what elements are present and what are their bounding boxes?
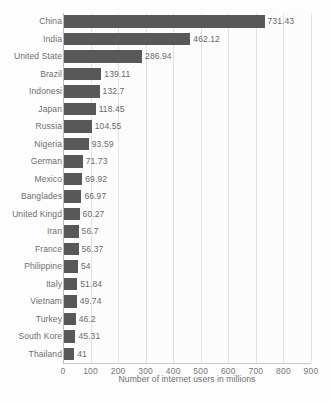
bar[interactable] [63, 208, 80, 220]
category-label-cell: Turkey [0, 311, 63, 329]
bar-value-label: 60.27 [83, 208, 105, 220]
category-label-cell: Indonesi [0, 83, 63, 101]
bar-value-label: 139.11 [104, 68, 130, 80]
bar-row: 41 [63, 346, 311, 364]
category-label-cell: India [0, 31, 63, 49]
bar-row: 66.97 [63, 188, 311, 206]
bar[interactable] [63, 120, 92, 132]
bar-row: 56.7 [63, 223, 311, 241]
category-label-cell: United State [0, 48, 63, 66]
bar-row: 51.84 [63, 276, 311, 294]
category-label: Italy [46, 278, 62, 290]
category-label: United State [14, 50, 62, 62]
plot-area: 731.43462.12286.94139.11132.7118.45104.5… [63, 13, 311, 363]
bar-row: 731.43 [63, 13, 311, 31]
bar-row: 60.27 [63, 206, 311, 224]
bar-row: 71.73 [63, 153, 311, 171]
bar[interactable] [63, 50, 142, 62]
gridline-900 [311, 13, 312, 363]
bar[interactable] [63, 225, 79, 237]
category-label-cell: France [0, 241, 63, 259]
bar-value-label: 731.43 [268, 15, 295, 27]
bar-row: 286.94 [63, 48, 311, 66]
bar-value-label: 132.7 [103, 85, 125, 97]
category-label-cell: Philippine [0, 258, 63, 276]
category-label: China [39, 15, 62, 27]
bar-value-label: 51.84 [80, 278, 102, 290]
bar-value-label: 66.97 [84, 190, 106, 202]
bar[interactable] [63, 103, 96, 115]
bar-row: 49.74 [63, 293, 311, 311]
bar-row: 104.55 [63, 118, 311, 136]
category-label: German [31, 155, 62, 167]
category-label: Mexico [34, 173, 62, 185]
bar[interactable] [63, 190, 81, 202]
category-label: Vietnam [30, 295, 62, 307]
bar-row: 132.7 [63, 83, 311, 101]
category-label-cell: United Kingd [0, 206, 63, 224]
category-label-cell: Russia [0, 118, 63, 136]
category-label: Russia [35, 120, 62, 132]
x-axis-title: Number of internet users in millions [63, 374, 311, 385]
category-label-cell: Italy [0, 276, 63, 294]
bar-value-label: 462.12 [193, 33, 220, 45]
bar[interactable] [63, 68, 101, 80]
bar-value-label: 54 [81, 260, 91, 272]
category-label-cell: Iran [0, 223, 63, 241]
bar-value-label: 69.92 [85, 173, 107, 185]
bar-row: 45.31 [63, 328, 311, 346]
bar-value-label: 104.55 [95, 120, 122, 132]
bar[interactable] [63, 260, 78, 272]
x-axis-line [63, 363, 311, 364]
bar-chart: 731.43462.12286.94139.11132.7118.45104.5… [0, 0, 331, 403]
bar[interactable] [63, 278, 77, 290]
category-label-cell: German [0, 153, 63, 171]
bar-row: 93.59 [63, 136, 311, 154]
category-label-cell: Banglades [0, 188, 63, 206]
bar-row: 54 [63, 258, 311, 276]
category-label: Turkey [36, 313, 62, 325]
bar-value-label: 56.37 [82, 243, 104, 255]
bar[interactable] [63, 348, 74, 360]
bar[interactable] [63, 155, 83, 167]
bar-row: 69.92 [63, 171, 311, 189]
bar-value-label: 49.74 [80, 295, 102, 307]
category-label: Iran [47, 225, 62, 237]
category-label-cell: Mexico [0, 171, 63, 189]
category-label: Indonesi [29, 85, 62, 97]
category-label: United Kingd [12, 208, 62, 220]
bar-row: 56.37 [63, 241, 311, 259]
bar[interactable] [63, 330, 75, 342]
bar[interactable] [63, 295, 77, 307]
category-label: Brazil [40, 68, 62, 80]
bar[interactable] [63, 313, 76, 325]
category-label: South Kore [18, 330, 62, 342]
category-label: India [43, 33, 62, 45]
bar-row: 46.2 [63, 311, 311, 329]
y-axis-line [63, 13, 64, 363]
bar[interactable] [63, 85, 100, 97]
category-label: Banglades [21, 190, 62, 202]
category-label-cell: Japan [0, 101, 63, 119]
bar[interactable] [63, 173, 82, 185]
bar-value-label: 45.31 [78, 330, 100, 342]
bar[interactable] [63, 33, 190, 45]
category-label-cell: Thailand [0, 346, 63, 364]
category-label-cell: China [0, 13, 63, 31]
bar-value-label: 41 [77, 348, 87, 360]
category-label-cell: South Kore [0, 328, 63, 346]
bar-value-label: 286.94 [145, 50, 172, 62]
bar[interactable] [63, 243, 79, 255]
category-label-cell: Nigeria [0, 136, 63, 154]
category-label: France [35, 243, 62, 255]
bar-value-label: 46.2 [79, 313, 96, 325]
bar-value-label: 93.59 [92, 138, 114, 150]
bar-row: 462.12 [63, 31, 311, 49]
bar[interactable] [63, 138, 89, 150]
category-label-cell: Vietnam [0, 293, 63, 311]
bar[interactable] [63, 15, 265, 27]
category-label: Philippine [24, 260, 62, 272]
category-label: Thailand [29, 348, 62, 360]
bar-row: 139.11 [63, 66, 311, 84]
category-label: Nigeria [34, 138, 62, 150]
